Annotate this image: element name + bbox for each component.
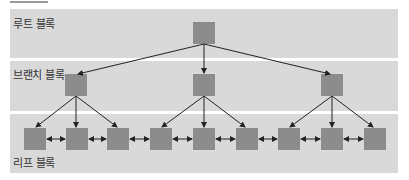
leaf-node xyxy=(193,128,215,150)
branch-node xyxy=(65,74,87,96)
leaf-node xyxy=(24,128,46,150)
leaf-node xyxy=(107,128,129,150)
leaf-node xyxy=(66,128,88,150)
leaf-node xyxy=(364,128,386,150)
branch-leaf-arrows xyxy=(36,96,373,127)
tree-diagram xyxy=(0,0,409,180)
root-branch-arrows xyxy=(78,44,330,74)
leaf-node xyxy=(236,128,258,150)
root-node xyxy=(193,22,215,44)
leaf-nodes xyxy=(24,128,386,150)
branch-node xyxy=(321,74,343,96)
leaf-node xyxy=(150,128,172,150)
leaf-node xyxy=(321,128,343,150)
leaf-node xyxy=(278,128,300,150)
branch-node xyxy=(193,74,215,96)
